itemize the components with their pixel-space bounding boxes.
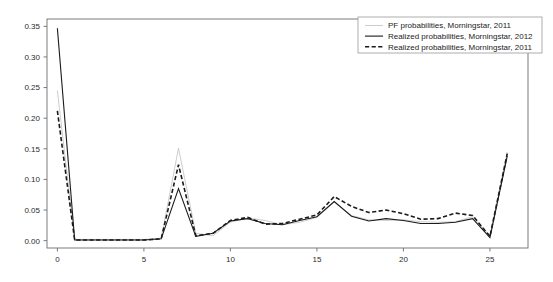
y-tick-label: 0.05: [24, 206, 40, 215]
y-tick-label: 0.10: [24, 175, 40, 184]
y-tick-label: 0.20: [24, 114, 40, 123]
x-tick-label: 20: [399, 255, 408, 264]
legend-label-1: PF probabilities, Morningstar, 2011: [388, 21, 512, 30]
x-tick-label: 0: [55, 255, 60, 264]
y-tick-label: 0.15: [24, 145, 40, 154]
x-tick-label: 10: [226, 255, 235, 264]
y-tick-label: 0.35: [24, 22, 40, 31]
x-tick-label: 5: [142, 255, 147, 264]
x-tick-label: 25: [485, 255, 494, 264]
y-tick-label: 0.25: [24, 83, 40, 92]
y-tick-label: 0.30: [24, 53, 40, 62]
x-tick-label: 15: [312, 255, 321, 264]
legend-label-3: Realized probabilities, Morningstar, 201…: [388, 43, 532, 52]
chart-legend: PF probabilities, Morningstar, 2011Reali…: [358, 17, 542, 53]
chart-figure: 0.000.050.100.150.200.250.300.35 0510152…: [0, 0, 553, 282]
line-chart: 0.000.050.100.150.200.250.300.35 0510152…: [0, 0, 553, 282]
y-tick-label: 0.00: [24, 237, 40, 246]
legend-label-2: Realized probabilities, Morningstar, 201…: [388, 32, 533, 41]
